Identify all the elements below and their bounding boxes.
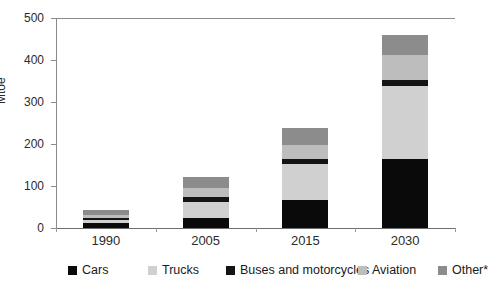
bar-segment[interactable] bbox=[382, 35, 428, 55]
bar-segment[interactable] bbox=[183, 197, 229, 202]
x-tick-mark bbox=[355, 228, 356, 232]
bar-segment[interactable] bbox=[282, 200, 328, 228]
chart-legend: CarsTrucksBuses and motorcyclesAviationO… bbox=[56, 260, 456, 278]
x-tick-mark bbox=[156, 228, 157, 232]
bar-segment[interactable] bbox=[282, 145, 328, 159]
legend-swatch-icon bbox=[438, 266, 447, 275]
bar-segment[interactable] bbox=[83, 220, 129, 223]
y-tick-mark bbox=[51, 144, 57, 145]
x-tick-mark bbox=[455, 228, 456, 232]
legend-item[interactable]: Buses and motorcycles bbox=[226, 260, 369, 276]
legend-label: Cars bbox=[82, 263, 108, 277]
legend-item[interactable]: Other* bbox=[438, 260, 488, 276]
legend-item[interactable]: Trucks bbox=[148, 260, 199, 276]
bar-segment[interactable] bbox=[382, 80, 428, 86]
x-tick-label: 2005 bbox=[166, 234, 246, 247]
y-tick-label: 200 bbox=[0, 138, 44, 150]
y-tick-mark bbox=[51, 186, 57, 187]
legend-label: Buses and motorcycles bbox=[240, 263, 369, 277]
bar-segment[interactable] bbox=[83, 210, 129, 215]
x-tick-mark bbox=[256, 228, 257, 232]
y-tick-label: 0 bbox=[0, 222, 44, 234]
legend-label: Trucks bbox=[162, 263, 199, 277]
bar-segment[interactable] bbox=[382, 159, 428, 228]
bar-segment[interactable] bbox=[382, 86, 428, 159]
y-tick-mark bbox=[51, 18, 57, 19]
legend-swatch-icon bbox=[68, 266, 77, 275]
legend-label: Aviation bbox=[372, 263, 416, 277]
bar-segment[interactable] bbox=[183, 188, 229, 197]
y-axis-line bbox=[56, 18, 57, 229]
bar-segment[interactable] bbox=[282, 128, 328, 145]
y-tick-label: 100 bbox=[0, 180, 44, 192]
stacked-bar[interactable] bbox=[282, 128, 328, 228]
stacked-bar[interactable] bbox=[83, 210, 129, 228]
plot-top-border bbox=[56, 18, 455, 19]
bar-segment[interactable] bbox=[83, 223, 129, 228]
y-tick-mark bbox=[51, 60, 57, 61]
bar-segment[interactable] bbox=[282, 159, 328, 164]
x-tick-label: 1990 bbox=[66, 234, 146, 247]
legend-swatch-icon bbox=[358, 266, 367, 275]
legend-item[interactable]: Aviation bbox=[358, 260, 416, 276]
x-tick-mark bbox=[56, 228, 57, 232]
bar-segment[interactable] bbox=[183, 202, 229, 218]
legend-label: Other* bbox=[452, 263, 488, 277]
x-tick-label: 2015 bbox=[265, 234, 345, 247]
stacked-bar[interactable] bbox=[382, 35, 428, 228]
bar-segment[interactable] bbox=[83, 218, 129, 220]
legend-swatch-icon bbox=[226, 266, 235, 275]
y-tick-mark bbox=[51, 102, 57, 103]
bar-segment[interactable] bbox=[83, 215, 129, 218]
y-tick-label: 400 bbox=[0, 54, 44, 66]
bar-segment[interactable] bbox=[382, 55, 428, 79]
bar-segment[interactable] bbox=[183, 177, 229, 188]
x-tick-label: 2030 bbox=[365, 234, 445, 247]
bar-segment[interactable] bbox=[183, 218, 229, 228]
bar-segment[interactable] bbox=[282, 164, 328, 201]
y-tick-label: 500 bbox=[0, 12, 44, 24]
stacked-bar[interactable] bbox=[183, 177, 229, 228]
y-tick-label: 300 bbox=[0, 96, 44, 108]
legend-item[interactable]: Cars bbox=[68, 260, 108, 276]
cropped-title-remnant bbox=[60, 0, 300, 4]
legend-swatch-icon bbox=[148, 266, 157, 275]
